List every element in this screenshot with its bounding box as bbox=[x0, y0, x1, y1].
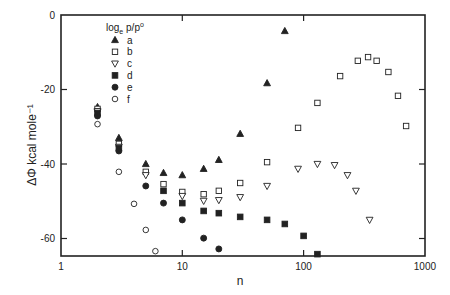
data-point-d bbox=[216, 210, 222, 216]
data-point-a bbox=[237, 130, 244, 136]
series-b bbox=[95, 54, 409, 196]
data-point-c bbox=[366, 217, 373, 223]
x-tick-label: 100 bbox=[295, 261, 312, 272]
series-a bbox=[94, 27, 288, 177]
data-point-a bbox=[200, 165, 207, 171]
y-axis-label: ΔΦ kcal mole⁻¹ bbox=[25, 104, 39, 186]
legend-label: d bbox=[127, 70, 133, 81]
x-axis-label: n bbox=[237, 274, 244, 288]
data-point-b bbox=[264, 159, 269, 164]
data-point-e bbox=[161, 200, 167, 206]
data-point-a bbox=[281, 27, 288, 33]
data-point-d bbox=[161, 188, 167, 194]
legend-label: f bbox=[127, 94, 130, 105]
data-point-f bbox=[143, 227, 149, 233]
legend-marker-f bbox=[112, 96, 118, 102]
legend-title-log: log bbox=[106, 22, 119, 33]
legend-label: a bbox=[127, 35, 133, 46]
data-point-e bbox=[116, 148, 122, 154]
x-tick-label: 1 bbox=[58, 261, 64, 272]
data-point-c bbox=[142, 173, 149, 179]
data-point-a bbox=[142, 160, 149, 166]
legend-marker-d bbox=[112, 73, 118, 79]
data-point-c bbox=[179, 193, 186, 199]
data-point-c bbox=[331, 163, 338, 169]
legend-marker-c bbox=[112, 61, 119, 67]
data-point-b bbox=[374, 58, 379, 63]
scatter-chart: 1101001000 0-20-40-60 n ΔΦ kcal mole⁻¹ l… bbox=[0, 0, 450, 295]
legend-title-sup: o bbox=[140, 21, 144, 28]
data-point-b bbox=[365, 54, 370, 59]
data-point-c bbox=[200, 198, 207, 204]
data-point-e bbox=[216, 246, 222, 252]
legend-label: b bbox=[127, 46, 133, 57]
data-point-f bbox=[95, 121, 101, 127]
y-tick-label: 0 bbox=[49, 10, 55, 21]
data-point-c bbox=[215, 198, 222, 204]
data-point-c bbox=[237, 195, 244, 201]
legend-title-rest: p/p bbox=[123, 22, 140, 33]
legend-items: abcdef bbox=[112, 35, 133, 105]
series-d bbox=[95, 110, 321, 257]
data-point-d bbox=[201, 208, 207, 214]
data-point-a bbox=[179, 172, 186, 178]
data-point-b bbox=[161, 181, 166, 186]
legend-marker-e bbox=[112, 84, 118, 90]
data-point-c bbox=[264, 183, 271, 189]
data-point-d bbox=[180, 200, 186, 206]
legend-title: loge p/po bbox=[106, 21, 144, 35]
data-point-b bbox=[216, 188, 221, 193]
data-point-b bbox=[337, 73, 342, 78]
legend-item-e: e bbox=[112, 82, 133, 93]
data-point-d bbox=[237, 214, 243, 220]
data-point-e bbox=[179, 217, 185, 223]
data-point-a bbox=[215, 156, 222, 162]
x-tick-label: 1000 bbox=[414, 261, 437, 272]
data-point-b bbox=[386, 69, 391, 74]
data-point-b bbox=[315, 100, 320, 105]
y-tick-label: -60 bbox=[41, 233, 56, 244]
data-point-e bbox=[95, 113, 101, 119]
legend-item-a: a bbox=[112, 35, 133, 46]
data-point-d bbox=[301, 233, 307, 239]
legend-label: e bbox=[127, 82, 133, 93]
legend-marker-a bbox=[112, 36, 119, 42]
data-point-f bbox=[116, 169, 122, 175]
data-point-a bbox=[264, 80, 271, 86]
data-point-f bbox=[131, 201, 137, 207]
data-point-e bbox=[143, 183, 149, 189]
data-point-b bbox=[237, 180, 242, 185]
data-point-d bbox=[315, 251, 321, 257]
legend-label: c bbox=[127, 58, 132, 69]
data-point-b bbox=[295, 125, 300, 130]
y-tick-label: -20 bbox=[41, 84, 56, 95]
legend-item-c: c bbox=[112, 58, 132, 69]
legend-item-f: f bbox=[112, 94, 130, 105]
data-point-c bbox=[295, 166, 302, 172]
data-point-c bbox=[344, 173, 351, 179]
data-point-b bbox=[403, 123, 408, 128]
data-point-a bbox=[115, 134, 122, 140]
series-e bbox=[95, 113, 222, 252]
data-point-f bbox=[153, 248, 159, 254]
legend-marker-b bbox=[112, 49, 117, 54]
data-point-e bbox=[201, 235, 207, 241]
legend-item-d: d bbox=[112, 70, 132, 81]
data-point-d bbox=[264, 217, 270, 223]
data-point-d bbox=[282, 221, 288, 227]
data-point-a bbox=[160, 169, 167, 175]
data-point-c bbox=[314, 161, 321, 167]
legend-item-b: b bbox=[112, 46, 133, 57]
data-point-c bbox=[353, 188, 360, 194]
data-points bbox=[94, 27, 409, 257]
legend: loge p/po abcdef bbox=[106, 21, 144, 105]
x-tick-label: 10 bbox=[177, 261, 189, 272]
y-tick-label: -40 bbox=[41, 159, 56, 170]
data-point-b bbox=[395, 93, 400, 98]
data-point-b bbox=[355, 58, 360, 63]
data-point-b bbox=[201, 191, 206, 196]
